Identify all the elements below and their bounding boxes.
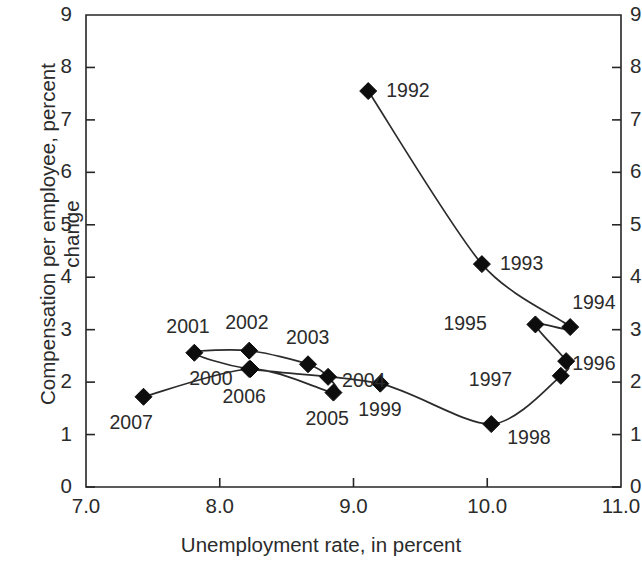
data-point-2002 <box>241 342 258 359</box>
point-label-1994: 1994 <box>572 291 615 314</box>
y-axis-title-line1: Compensation per employee, percent <box>36 24 60 444</box>
y-tick-label-right-4: 4 <box>630 264 642 288</box>
point-label-2006: 2006 <box>223 385 266 408</box>
point-label-1992: 1992 <box>386 79 429 102</box>
y-tick-label-right-7: 7 <box>630 107 642 131</box>
point-label-2005: 2005 <box>305 407 348 430</box>
point-label-1996: 1996 <box>572 352 615 375</box>
bottom-axis-ticks <box>220 478 488 487</box>
y-tick-label-right-5: 5 <box>630 212 642 236</box>
x-tick-label-10.0: 10.0 <box>442 494 532 518</box>
point-label-2007: 2007 <box>110 411 153 434</box>
data-point-1995 <box>527 316 544 333</box>
point-label-1997: 1997 <box>469 368 512 391</box>
data-point-2001 <box>186 344 203 361</box>
y-tick-label-right-3: 3 <box>630 317 642 341</box>
y-axis-title-line2: change <box>60 24 84 444</box>
x-tick-label-7.0: 7.0 <box>41 494 131 518</box>
y-tick-label-right-9: 9 <box>630 2 642 26</box>
x-axis-title: Unemployment rate, in percent <box>0 533 642 557</box>
point-label-2002: 2002 <box>225 311 268 334</box>
data-point-2006 <box>242 361 259 378</box>
point-label-2001: 2001 <box>166 315 209 338</box>
point-label-1995: 1995 <box>443 312 486 335</box>
y-tick-label-right-2: 2 <box>630 369 642 393</box>
data-point-1992 <box>360 83 377 100</box>
y-axis-title: Compensation per employee, percent chang… <box>36 24 84 444</box>
data-point-2003 <box>300 356 317 373</box>
x-tick-label-11.0: 11.0 <box>576 494 642 518</box>
data-point-2005 <box>325 384 342 401</box>
data-point-1998 <box>483 416 500 433</box>
right-axis-ticks <box>612 67 621 487</box>
plot-frame <box>86 15 621 487</box>
x-tick-label-9.0: 9.0 <box>309 494 399 518</box>
x-tick-label-8.0: 8.0 <box>175 494 265 518</box>
point-label-1993: 1993 <box>500 252 543 275</box>
phillips-curve-chart: 001122334455667788997.08.09.010.011.0 19… <box>0 0 642 567</box>
y-tick-label-right-1: 1 <box>630 422 642 446</box>
point-label-1998: 1998 <box>507 426 550 449</box>
y-tick-label-right-8: 8 <box>630 54 642 78</box>
point-label-2004: 2004 <box>342 369 385 392</box>
point-label-2003: 2003 <box>286 326 329 349</box>
y-tick-label-right-6: 6 <box>630 159 642 183</box>
point-label-1999: 1999 <box>358 398 401 421</box>
data-point-2007 <box>135 388 152 405</box>
left-axis-ticks <box>86 67 95 487</box>
data-point-1994 <box>562 319 579 336</box>
chart-canvas <box>0 0 642 567</box>
y-tick-label-left-9: 9 <box>20 2 72 26</box>
